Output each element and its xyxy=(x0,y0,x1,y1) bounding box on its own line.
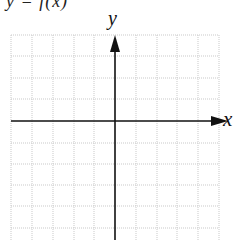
grid-and-axes xyxy=(0,0,235,240)
y-axis-label: y xyxy=(108,7,117,30)
coordinate-plane-figure: y = f(x) xyxy=(0,0,235,240)
y-axis-arrow-icon xyxy=(110,35,120,52)
x-axis-label: x xyxy=(223,107,232,132)
axes xyxy=(11,35,228,240)
